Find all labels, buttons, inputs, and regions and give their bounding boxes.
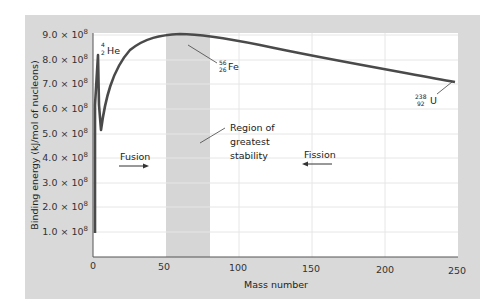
svg-text:3.0 × 108: 3.0 × 108 bbox=[42, 176, 88, 188]
svg-text:0: 0 bbox=[90, 260, 96, 271]
svg-text:2.0 × 108: 2.0 × 108 bbox=[42, 200, 88, 212]
svg-text:200: 200 bbox=[376, 264, 394, 275]
fe-label: 56 26 Fe bbox=[219, 59, 239, 73]
x-tick-labels: 0 50 100 150 200 250 bbox=[90, 260, 466, 276]
svg-text:7.0 × 108: 7.0 × 108 bbox=[42, 77, 88, 89]
svg-text:5.0 × 108: 5.0 × 108 bbox=[42, 127, 88, 139]
svg-text:4: 4 bbox=[101, 41, 105, 48]
svg-text:1.0 × 108: 1.0 × 108 bbox=[42, 225, 88, 237]
svg-text:U: U bbox=[430, 95, 437, 106]
plot-area bbox=[93, 33, 458, 257]
stability-region bbox=[166, 33, 210, 257]
svg-text:250: 250 bbox=[448, 265, 466, 276]
svg-text:9.0 × 108: 9.0 × 108 bbox=[42, 28, 88, 40]
svg-text:6.0 × 108: 6.0 × 108 bbox=[42, 102, 88, 114]
svg-text:8.0 × 108: 8.0 × 108 bbox=[42, 53, 88, 65]
svg-text:238: 238 bbox=[415, 93, 427, 100]
svg-text:92: 92 bbox=[417, 100, 425, 107]
svg-text:100: 100 bbox=[229, 262, 247, 273]
y-tick-labels: 9.0 × 108 8.0 × 108 7.0 × 108 6.0 × 108 … bbox=[42, 28, 88, 237]
fission-label: Fission bbox=[304, 149, 336, 160]
x-axis-title: Mass number bbox=[244, 279, 308, 290]
svg-text:4.0 × 108: 4.0 × 108 bbox=[42, 151, 88, 163]
fusion-label: Fusion bbox=[120, 151, 150, 162]
binding-energy-chart: 9.0 × 108 8.0 × 108 7.0 × 108 6.0 × 108 … bbox=[0, 0, 500, 308]
svg-text:26: 26 bbox=[219, 66, 227, 73]
svg-text:2: 2 bbox=[101, 49, 105, 56]
svg-text:stability: stability bbox=[230, 150, 268, 161]
svg-text:He: He bbox=[107, 45, 120, 56]
y-axis-title: Binding energy (kJ/mol of nucleons) bbox=[29, 60, 40, 229]
svg-text:150: 150 bbox=[302, 263, 320, 274]
svg-text:Fe: Fe bbox=[228, 61, 239, 72]
svg-text:greatest: greatest bbox=[230, 136, 270, 147]
svg-text:Region of: Region of bbox=[230, 122, 275, 133]
svg-text:56: 56 bbox=[219, 59, 227, 66]
svg-text:50: 50 bbox=[158, 261, 170, 272]
